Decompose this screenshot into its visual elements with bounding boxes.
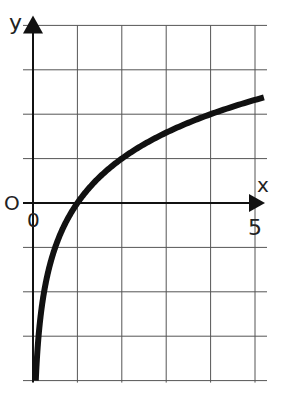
x-axis-label: x bbox=[257, 175, 269, 195]
curve-line bbox=[36, 97, 264, 380]
y-axis-arrow-icon bbox=[23, 15, 43, 33]
x-end-tick-label: 5 bbox=[248, 217, 262, 239]
x-origin-label: 0 bbox=[27, 210, 40, 230]
y-origin-label: O bbox=[4, 193, 20, 213]
y-axis-label: y bbox=[9, 12, 22, 34]
chart bbox=[0, 0, 282, 395]
